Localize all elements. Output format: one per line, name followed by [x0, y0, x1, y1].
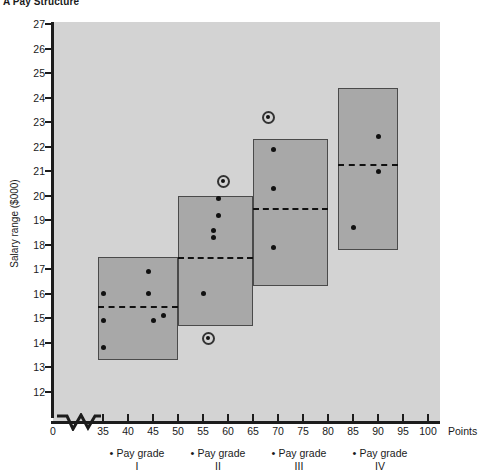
x-tick-label: 95	[390, 425, 416, 437]
chart-root: A Pay Structure 272625242322212019181716…	[0, 0, 487, 476]
y-tick-label: 26	[23, 44, 45, 54]
pay-grade-roman-numeral: IV	[332, 460, 428, 473]
y-tick-mark	[45, 170, 52, 172]
x-axis-line	[51, 421, 440, 424]
x-tick-mark	[102, 414, 104, 421]
employee-data-point	[216, 196, 221, 201]
x-tick-mark	[127, 414, 129, 421]
pay-grade-caption-text: Pay grade	[117, 447, 165, 459]
employee-data-point	[101, 345, 106, 350]
y-tick-label-wrap: 25	[18, 68, 45, 78]
y-tick-label-wrap: 19	[18, 215, 45, 225]
y-tick-label-wrap: 27	[18, 19, 45, 29]
y-tick-label-wrap: 20	[18, 191, 45, 201]
y-tick-mark	[45, 342, 52, 344]
y-tick-label: 19	[23, 215, 45, 225]
employee-data-point	[146, 291, 151, 296]
y-tick-label-wrap: 26	[18, 44, 45, 54]
pay-grade-caption-iv: • Pay gradeIV	[332, 447, 428, 473]
x-tick-mark	[327, 414, 329, 421]
employee-data-point	[101, 318, 106, 323]
pay-grade-caption-text: Pay grade	[198, 447, 246, 459]
y-tick-mark	[45, 121, 52, 123]
employee-data-point	[271, 186, 276, 191]
y-tick-label-wrap: 17	[18, 264, 45, 274]
x-tick-label: 0	[40, 425, 66, 437]
pay-grade-caption-text: Pay grade	[360, 447, 408, 459]
x-tick-mark	[302, 414, 304, 421]
x-tick-label: 35	[90, 425, 116, 437]
page-title: A Pay Structure	[3, 0, 79, 7]
y-tick-mark	[45, 293, 52, 295]
pay-grade-midpoint-line-i	[98, 306, 178, 308]
x-tick-label: 40	[115, 425, 141, 437]
x-tick-mark	[202, 414, 204, 421]
y-tick-label: 12	[23, 387, 45, 397]
x-axis-title: Points	[448, 425, 477, 437]
y-tick-label: 21	[23, 166, 45, 176]
employee-data-point	[271, 147, 276, 152]
y-tick-mark	[45, 23, 52, 25]
x-tick-label: 45	[140, 425, 166, 437]
pay-grade-box-i[interactable]	[98, 257, 178, 360]
employee-data-point	[376, 169, 381, 174]
x-tick-mark	[352, 414, 354, 421]
x-tick-label: 55	[190, 425, 216, 437]
bullet-icon: •	[353, 447, 360, 459]
y-tick-label: 24	[23, 93, 45, 103]
employee-data-point	[146, 269, 151, 274]
pay-grade-caption-text: Pay grade	[279, 447, 327, 459]
x-tick-mark	[427, 414, 429, 421]
x-tick-mark	[227, 414, 229, 421]
x-tick-label: 85	[340, 425, 366, 437]
y-tick-mark	[45, 219, 52, 221]
y-tick-mark	[45, 366, 52, 368]
y-axis-title: Salary range ($000)	[9, 164, 20, 284]
y-tick-mark	[45, 48, 52, 50]
y-tick-mark	[45, 146, 52, 148]
employee-data-point	[376, 134, 381, 139]
x-tick-label: 100	[415, 425, 441, 437]
y-tick-label-wrap: 18	[18, 240, 45, 250]
pay-grade-midpoint-line-iii	[253, 208, 328, 210]
y-tick-label-wrap: 15	[18, 313, 45, 323]
employee-data-point	[211, 235, 216, 240]
y-tick-label-wrap: 21	[18, 166, 45, 176]
y-tick-label: 27	[23, 19, 45, 29]
y-tick-label: 25	[23, 68, 45, 78]
employee-data-point	[201, 291, 206, 296]
x-tick-label: 80	[315, 425, 341, 437]
pay-grade-box-iv[interactable]	[338, 88, 398, 250]
y-tick-mark	[45, 317, 52, 319]
y-tick-label: 15	[23, 313, 45, 323]
outlier-data-point	[217, 175, 230, 188]
employee-data-point	[216, 213, 221, 218]
bullet-icon: •	[272, 447, 279, 459]
y-tick-label: 16	[23, 289, 45, 299]
outlier-data-point	[202, 332, 215, 345]
y-tick-label-wrap: 12	[18, 387, 45, 397]
pay-grade-box-iii[interactable]	[253, 139, 328, 286]
y-tick-label: 18	[23, 240, 45, 250]
y-tick-mark	[45, 97, 52, 99]
pay-grade-midpoint-line-ii	[178, 257, 253, 259]
employee-data-point	[351, 225, 356, 230]
x-tick-mark	[252, 414, 254, 421]
y-tick-mark	[45, 244, 52, 246]
pay-grade-midpoint-line-iv	[338, 164, 398, 166]
x-tick-label: 90	[365, 425, 391, 437]
y-tick-label: 22	[23, 142, 45, 152]
x-tick-mark	[402, 414, 404, 421]
y-tick-label-wrap: 14	[18, 338, 45, 348]
bullet-icon: •	[191, 447, 198, 459]
y-tick-label-wrap: 24	[18, 93, 45, 103]
employee-data-point	[101, 291, 106, 296]
x-tick-mark	[177, 414, 179, 421]
x-tick-mark	[277, 414, 279, 421]
x-tick-label: 50	[165, 425, 191, 437]
y-tick-label-wrap: 13	[18, 362, 45, 372]
x-tick-mark	[152, 414, 154, 421]
y-tick-label-wrap: 22	[18, 142, 45, 152]
employee-data-point	[151, 318, 156, 323]
employee-data-point	[271, 245, 276, 250]
